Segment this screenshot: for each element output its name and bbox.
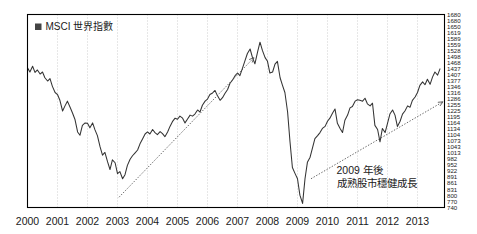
x-axis-tick-label: 2013 bbox=[406, 215, 430, 227]
msci-world-index-line-chart: 1680168016501619158915591528149814681437… bbox=[0, 0, 477, 234]
x-axis-tick-label: 2000 bbox=[16, 215, 40, 227]
x-axis-tick-label: 2011 bbox=[346, 215, 369, 227]
x-axis-tick-label: 2004 bbox=[136, 215, 160, 227]
chart-root: 1680168016501619158915591528149814681437… bbox=[0, 0, 477, 234]
y-axis-tick-label: 740 bbox=[447, 204, 458, 211]
x-axis-tick-label: 2010 bbox=[316, 215, 340, 227]
x-axis-tick-label: 2001 bbox=[46, 215, 70, 227]
x-axis-tick-label: 2012 bbox=[376, 215, 400, 227]
x-axis-tick-label: 2007 bbox=[226, 215, 250, 227]
annotation-line-2: 成熟股市穩健成長 bbox=[337, 177, 418, 189]
x-axis-tick-label: 2009 bbox=[286, 215, 310, 227]
annotation-line-1: 2009 年後 bbox=[337, 164, 384, 176]
legend-label: MSCI 世界指數 bbox=[46, 20, 114, 32]
legend-marker-filled-square-icon bbox=[35, 24, 42, 31]
x-axis-tick-label: 2002 bbox=[76, 215, 100, 227]
x-axis-tick-label: 2005 bbox=[166, 215, 190, 227]
x-axis-tick-label: 2008 bbox=[256, 215, 280, 227]
x-axis-tick-label: 2003 bbox=[106, 215, 130, 227]
x-axis-tick-label: 2006 bbox=[196, 215, 220, 227]
